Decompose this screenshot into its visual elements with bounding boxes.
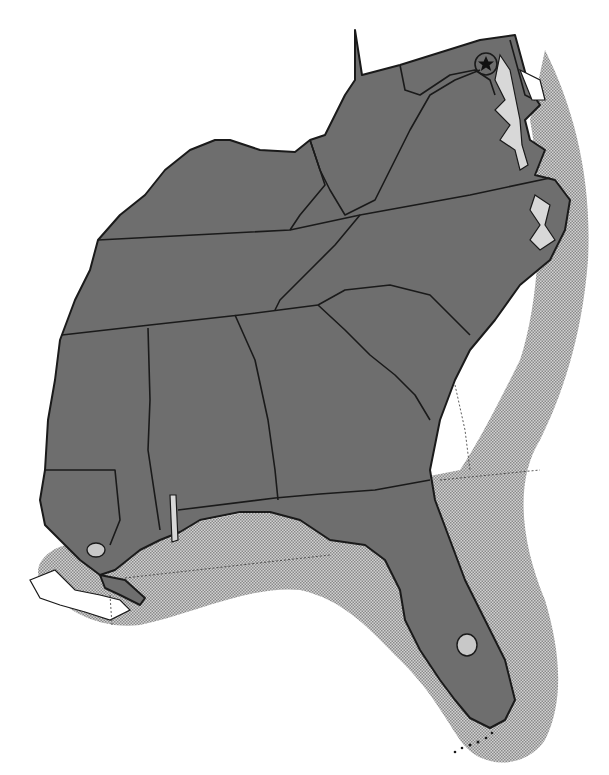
lake-pontchartrain [87, 543, 105, 557]
mobile-bay [170, 495, 178, 542]
lake-okeechobee [457, 634, 477, 656]
atlantic-boundary-line-nc [455, 385, 470, 470]
southeast-us-map [0, 0, 609, 775]
